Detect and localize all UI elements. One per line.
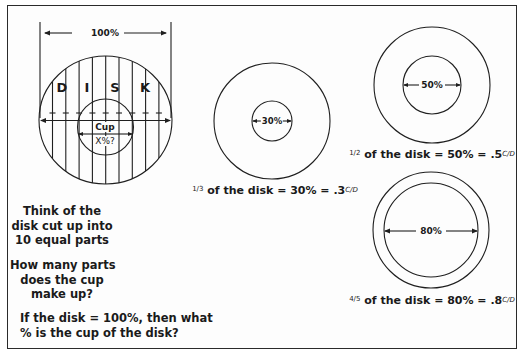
cup-label: Cup xyxy=(94,122,115,132)
example-50-label: 50% xyxy=(420,80,444,90)
disk-diagram xyxy=(39,22,172,190)
disk-letter-i: I xyxy=(84,80,91,95)
example-50-caption: 1/2 of the disk = 50% = .5C/D xyxy=(349,148,515,161)
instruction-text-2: How many parts does the cup make up? xyxy=(10,258,114,302)
instruction-text-3: If the disk = 100%, then what % is the c… xyxy=(20,311,213,340)
disk-letter-d: D xyxy=(56,80,69,95)
disk-letter-k: K xyxy=(139,80,151,95)
cup-measure-label: X%? xyxy=(94,136,116,146)
example-30-label: 30% xyxy=(261,116,283,126)
disk-letter-s: S xyxy=(109,80,120,95)
measure-label-100: 100% xyxy=(90,28,120,38)
instruction-text-1: Think of the disk cut up into 10 equal p… xyxy=(10,204,114,248)
example-80-caption: 4/5 of the disk = 80% = .8C/D xyxy=(349,294,515,307)
example-30-caption: 1/3 of the disk = 30% = .3C/D xyxy=(192,184,358,197)
example-80-label: 80% xyxy=(419,226,443,236)
